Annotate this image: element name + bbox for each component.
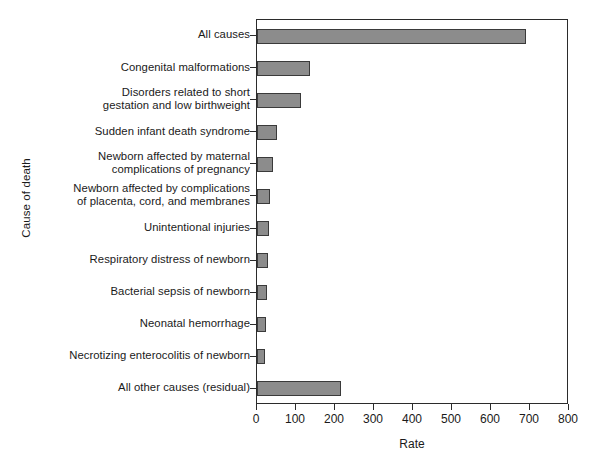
x-axis-tick: [256, 404, 257, 410]
x-axis-tick: [529, 404, 530, 410]
bar: [257, 189, 270, 204]
x-axis-tick-label: 800: [538, 412, 597, 426]
y-axis-tick: [250, 67, 256, 68]
y-axis-tick: [250, 356, 256, 357]
category-label: Sudden infant death syndrome: [18, 125, 250, 138]
bar: [257, 317, 266, 332]
y-axis-tick: [250, 388, 256, 389]
y-axis-tick: [250, 131, 256, 132]
x-axis-tick: [490, 404, 491, 410]
category-label: All causes: [18, 28, 250, 41]
x-axis-tick: [568, 404, 569, 410]
plot-area: [256, 19, 568, 404]
y-axis-tick: [250, 195, 256, 196]
bar: [257, 285, 267, 300]
bar: [257, 61, 310, 76]
bar: [257, 349, 265, 364]
category-label: All other causes (residual): [18, 381, 250, 394]
y-axis-tick: [250, 35, 256, 36]
category-label: Respiratory distress of newborn: [18, 253, 250, 266]
x-axis-tick: [373, 404, 374, 410]
bar: [257, 157, 273, 172]
infant-mortality-bar-chart: Cause of death All causesCongenital malf…: [0, 0, 597, 462]
bar: [257, 125, 277, 140]
bar: [257, 93, 301, 108]
category-label: Necrotizing enterocolitis of newborn: [18, 349, 250, 362]
bar: [257, 29, 526, 44]
category-label-column: All causesCongenital malformationsDisord…: [18, 19, 250, 404]
y-axis-tick: [250, 228, 256, 229]
category-label: Bacterial sepsis of newborn: [18, 285, 250, 298]
y-axis-tick: [250, 324, 256, 325]
y-axis-tick: [250, 292, 256, 293]
category-label: Congenital malformations: [18, 61, 250, 74]
category-label: Disorders related to short gestation and…: [18, 86, 250, 112]
x-axis-title: Rate: [256, 437, 568, 451]
category-label: Unintentional injuries: [18, 221, 250, 234]
x-axis-tick: [295, 404, 296, 410]
x-axis-tick: [451, 404, 452, 410]
x-axis-tick: [334, 404, 335, 410]
category-label: Newborn affected by maternal complicatio…: [18, 150, 250, 176]
category-label: Neonatal hemorrhage: [18, 317, 250, 330]
y-axis-tick: [250, 260, 256, 261]
bar: [257, 253, 268, 268]
y-axis-tick: [250, 163, 256, 164]
bar: [257, 221, 269, 236]
category-label: Newborn affected by complications of pla…: [18, 182, 250, 208]
bar: [257, 381, 341, 396]
x-axis-tick: [412, 404, 413, 410]
y-axis-tick: [250, 99, 256, 100]
